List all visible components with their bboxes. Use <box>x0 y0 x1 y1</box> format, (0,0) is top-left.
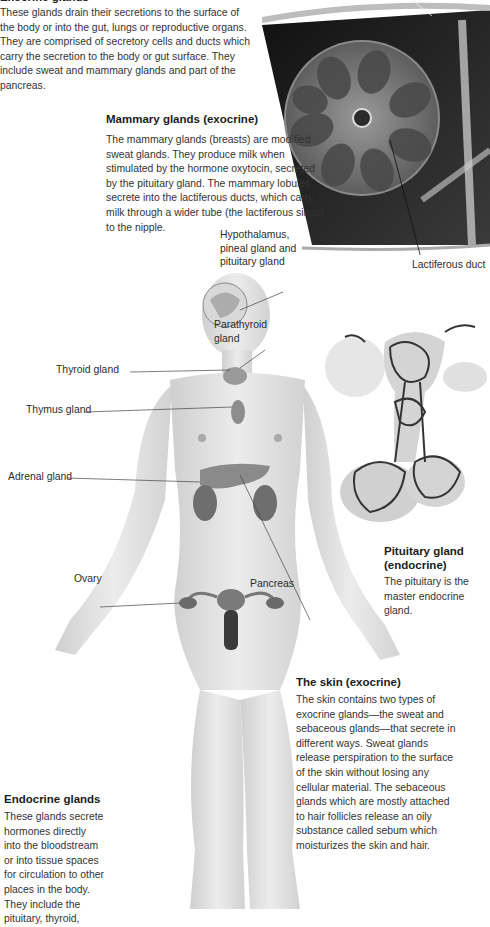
pancreas-label: Pancreas <box>250 577 294 591</box>
exocrine-glands-text: These glands drain their secretions to t… <box>0 6 252 94</box>
pituitary-text: The pituitary is the master endocrine gl… <box>384 575 490 619</box>
thymus-label: Thymus gland <box>26 403 91 417</box>
thyroid-leader <box>130 370 230 372</box>
ovary-label: Ovary <box>74 572 102 586</box>
pituitary-illustration <box>325 322 490 532</box>
lactiferous-duct-label: Lactiferous duct <box>412 258 485 272</box>
adrenal-label: Adrenal gland <box>8 470 72 484</box>
parathyroid-label: Parathyroid gland <box>214 318 274 345</box>
endocrine-glands-text: These glands secrete hormones directly i… <box>4 810 104 927</box>
skin-text: The skin contains two types of exocrine … <box>296 693 458 854</box>
skin-heading: The skin (exocrine) <box>296 676 401 688</box>
endocrine-glands-heading: Endocrine glands <box>4 793 101 805</box>
pituitary-svg <box>325 322 490 532</box>
hypothalamus-label: Hypothalamus, pineal gland and pituitary… <box>220 228 300 269</box>
mammary-glands-heading: Mammary glands (exocrine) <box>106 113 258 125</box>
pituitary-heading: Pituitary gland (endocrine) <box>384 544 484 572</box>
exocrine-glands-heading: Exocrine glands <box>0 0 89 3</box>
thyroid-label: Thyroid gland <box>56 363 119 377</box>
mammary-glands-text: The mammary glands (breasts) are modifie… <box>106 133 328 235</box>
